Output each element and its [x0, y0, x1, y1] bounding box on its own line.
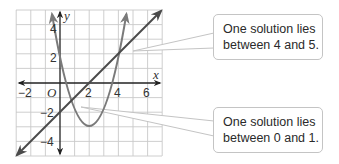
- x-tick-4: 4: [114, 86, 121, 100]
- callout-lower-line2: between 0 and 1.: [223, 130, 319, 146]
- x-tick-2: 2: [85, 86, 92, 100]
- x-axis-label: x: [152, 67, 159, 82]
- callout-pointer-upper: [133, 33, 214, 51]
- callout-lower: One solution lies between 0 and 1.: [213, 107, 323, 153]
- y-tick-2: 2: [50, 51, 57, 65]
- callout-upper-line1: One solution lies: [223, 21, 319, 37]
- x-tick-neg2: −2: [18, 86, 32, 100]
- callout-upper-line2: between 4 and 5.: [223, 37, 319, 53]
- y-tick-neg2: −2: [40, 106, 54, 120]
- callout-upper: One solution lies between 4 and 5.: [213, 14, 323, 60]
- origin-label: O: [47, 85, 57, 100]
- y-axis-label: y: [62, 8, 70, 23]
- y-tick-neg4: −4: [40, 135, 54, 149]
- y-tick-4: 4: [50, 22, 57, 36]
- callout-lower-line1: One solution lies: [223, 114, 319, 130]
- x-tick-6: 6: [143, 86, 150, 100]
